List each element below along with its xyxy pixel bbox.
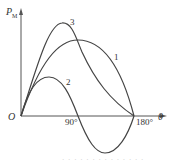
caption: · · · · · · · · · · · · · · bbox=[62, 156, 144, 164]
diagram-canvas bbox=[0, 0, 176, 165]
origin-label: O bbox=[8, 111, 15, 122]
x-tick-90: 90° bbox=[65, 117, 78, 127]
y-axis-label: PM bbox=[6, 6, 17, 19]
curve-2 bbox=[21, 77, 134, 153]
curve-label-1: 1 bbox=[114, 52, 119, 62]
x-axis-label: θ bbox=[158, 111, 163, 122]
x-tick-180: 180° bbox=[136, 117, 153, 127]
curve-label-3: 3 bbox=[70, 17, 75, 27]
y-axis-arrow-icon bbox=[19, 8, 23, 15]
curve-label-2: 2 bbox=[66, 77, 71, 87]
